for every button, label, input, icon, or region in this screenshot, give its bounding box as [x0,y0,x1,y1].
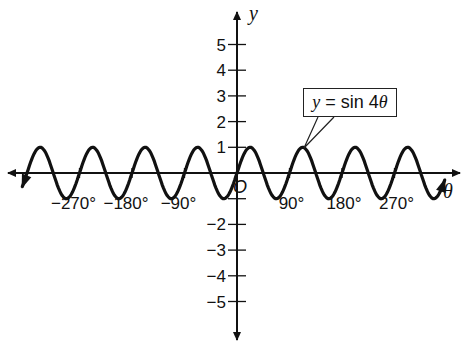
x-tick-label: 270° [379,194,414,213]
y-tick-label: 5 [217,36,226,55]
x-tick-label: 180° [326,194,361,213]
y-tick-label: −2 [207,215,226,234]
callout-y: y [312,92,320,113]
x-axis-label: θ [443,180,453,202]
callout-expr: = sin 4 [320,92,379,113]
x-tick-label: −180° [103,194,148,213]
y-tick-label: −5 [207,293,226,312]
x-tick-label: −270° [51,194,96,213]
y-tick-label: 4 [217,61,226,80]
y-tick-label: −3 [207,241,226,260]
x-tick-label: 90° [279,194,305,213]
y-tick-label: 2 [217,113,226,132]
origin-label: O [233,177,247,197]
function-callout: y = sin 4θ [303,88,397,117]
callout-pointer [304,117,334,148]
x-tick-label: −90° [161,194,197,213]
y-axis-label: y [247,2,258,25]
y-tick-label: 3 [217,87,226,106]
y-tick-label: 1 [217,138,226,157]
y-tick-label: −4 [207,267,226,286]
sine-graph: −5−4−3−212345−270°−180°−90°90°180°270° y… [0,0,462,344]
curve-arrow-left [22,174,32,189]
callout-theta: θ [379,92,388,113]
